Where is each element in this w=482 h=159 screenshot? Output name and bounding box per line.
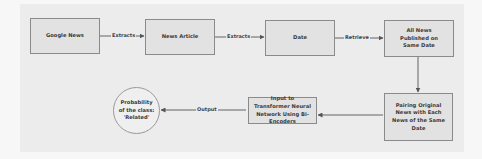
node-news-article: News Article — [145, 19, 215, 55]
node-transformer-label: Input to Transformer Neural Network Usin… — [254, 95, 311, 125]
node-date: Date — [265, 20, 335, 56]
node-date-label: Date — [293, 34, 307, 42]
node-google-news-label: Google News — [46, 32, 84, 40]
node-news-article-label: News Article — [162, 33, 199, 41]
node-transformer: Input to Transformer Neural Network Usin… — [248, 97, 317, 124]
edge-label-extracts-1: Extracts — [111, 32, 136, 39]
edge-label-output: Output — [196, 106, 218, 113]
node-probability-label: Probability of the class: 'Related' — [118, 99, 155, 122]
edge-label-retrieve: Retrieve — [344, 34, 370, 41]
node-google-news: Google News — [30, 18, 100, 54]
node-all-news-label: All News Published on Same Date — [393, 27, 445, 50]
node-pairing: Pairing Original News with Each News of … — [384, 93, 453, 141]
node-probability: Probability of the class: 'Related' — [113, 87, 160, 134]
node-pairing-label: Pairing Original News with Each News of … — [392, 102, 445, 132]
node-all-news: All News Published on Same Date — [384, 20, 454, 57]
edge-label-extracts-2: Extracts — [226, 33, 251, 40]
